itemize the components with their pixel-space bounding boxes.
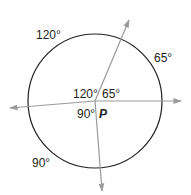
circle-diagram: 120° 65° 90° 120° 65° 90° P (0, 0, 191, 195)
central-angle-lower-left: 90° (77, 107, 95, 121)
arc-label-right: 65° (154, 51, 172, 65)
center-label-p: P (99, 107, 108, 121)
central-angle-upper-right: 65° (102, 87, 120, 101)
arc-label-lower-left: 90° (32, 156, 50, 170)
central-angle-upper-left: 120° (73, 87, 98, 101)
arc-label-upper-left: 120° (36, 28, 61, 42)
